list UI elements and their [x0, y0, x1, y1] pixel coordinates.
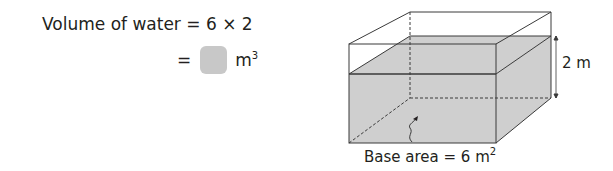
- height-dimension-arrow: [554, 36, 558, 98]
- tank-diagram: [0, 0, 613, 171]
- height-label: 2 m: [562, 54, 591, 72]
- base-area-label: Base area = 6 m2: [364, 146, 496, 166]
- water-volume: [349, 36, 551, 143]
